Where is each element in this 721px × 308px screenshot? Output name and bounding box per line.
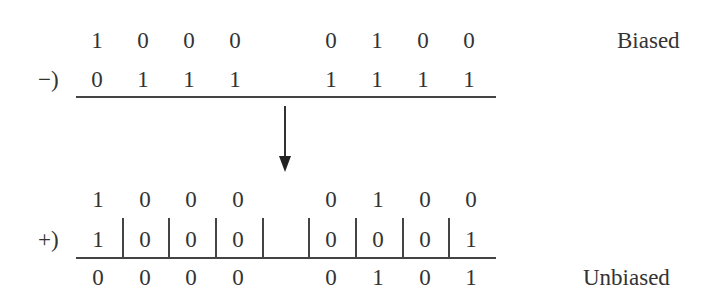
- digit: 0: [179, 227, 203, 253]
- digit: 0: [413, 187, 437, 213]
- digit: 1: [459, 265, 483, 291]
- digit: 0: [226, 265, 250, 291]
- digit: 1: [366, 187, 390, 213]
- digit: 0: [133, 227, 157, 253]
- digit: 1: [366, 265, 390, 291]
- digit: 0: [319, 227, 343, 253]
- digit: 0: [319, 28, 343, 54]
- digit: 1: [223, 67, 247, 93]
- column-separator: [262, 218, 264, 258]
- digit: 0: [223, 28, 247, 54]
- digit: 0: [133, 187, 157, 213]
- column-separator: [215, 218, 217, 258]
- digit: 1: [85, 28, 109, 54]
- digit: 0: [366, 227, 390, 253]
- column-separator: [122, 218, 124, 258]
- digit: 0: [131, 28, 155, 54]
- bottom-result-line: [76, 257, 496, 259]
- digit: 0: [179, 265, 203, 291]
- digit: 1: [365, 28, 389, 54]
- digit: 0: [86, 265, 110, 291]
- column-separator: [168, 218, 170, 258]
- digit: 0: [457, 28, 481, 54]
- column-separator: [355, 218, 357, 258]
- digit: 1: [319, 67, 343, 93]
- digit: 0: [226, 187, 250, 213]
- digit: 1: [459, 227, 483, 253]
- digit: 0: [413, 265, 437, 291]
- top-result-line: [76, 96, 496, 98]
- digit: 0: [177, 28, 201, 54]
- digit: 1: [86, 187, 110, 213]
- digit: 0: [133, 265, 157, 291]
- digit: 1: [457, 67, 481, 93]
- digit: 0: [411, 28, 435, 54]
- minus-operator: −): [38, 67, 59, 93]
- column-separator: [308, 218, 310, 258]
- digit: 0: [319, 265, 343, 291]
- column-separator: [448, 218, 450, 258]
- digit: 1: [131, 67, 155, 93]
- digit: 0: [179, 187, 203, 213]
- digit: 0: [319, 187, 343, 213]
- digit: 1: [411, 67, 435, 93]
- plus-operator: +): [38, 227, 59, 253]
- digit: 0: [459, 187, 483, 213]
- digit: 0: [85, 67, 109, 93]
- digit: 1: [365, 67, 389, 93]
- column-separator: [402, 218, 404, 258]
- digit: 0: [413, 227, 437, 253]
- digit: 1: [177, 67, 201, 93]
- digit: 0: [226, 227, 250, 253]
- unbiased-label: Unbiased: [583, 265, 670, 291]
- biased-label: Biased: [617, 28, 680, 54]
- digit: 1: [86, 227, 110, 253]
